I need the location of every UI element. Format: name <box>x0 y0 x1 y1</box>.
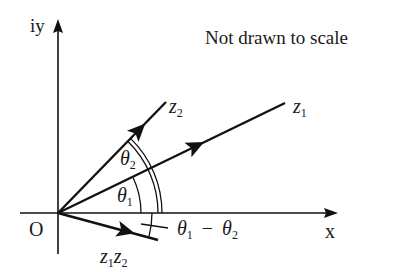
z1z2-sub2: 2 <box>122 256 128 270</box>
theta2-sub: 2 <box>130 158 136 172</box>
difference-symbol1: θ <box>177 217 187 239</box>
y-axis-arrow-icon <box>53 19 63 33</box>
vector-z1 <box>58 103 285 213</box>
z1-label: z1 <box>293 96 307 116</box>
y-axis-label: iy <box>30 16 45 35</box>
y-axis <box>53 19 63 254</box>
difference-operator: − <box>202 217 213 239</box>
vector-z2 <box>58 102 166 213</box>
z1z2-base1: z <box>100 245 108 267</box>
theta1-sub: 1 <box>127 195 133 209</box>
z1z2-arrowhead-icon <box>115 221 137 241</box>
x-axis-label: x <box>325 221 335 241</box>
z1-base: z <box>293 95 301 117</box>
origin-label: O <box>29 219 43 239</box>
z1z2-base2: z <box>114 245 122 267</box>
theta2-symbol: θ <box>120 147 130 169</box>
difference-arc-tick <box>141 224 168 228</box>
theta1-symbol: θ <box>117 184 127 206</box>
difference-sub2: 2 <box>232 228 238 242</box>
theta1-arc <box>133 177 141 213</box>
x-axis-arrow-icon <box>324 208 338 218</box>
z1-sub: 1 <box>301 106 307 120</box>
theta2-label: θ2 <box>120 148 136 168</box>
difference-label: θ1 − θ2 <box>177 218 238 238</box>
z1z2-label: z1z2 <box>100 246 128 266</box>
z2-label: z2 <box>169 96 183 116</box>
difference-symbol2: θ <box>222 217 232 239</box>
z2-base: z <box>169 95 177 117</box>
theta1-label: θ1 <box>117 185 133 205</box>
vector-z1z2 <box>58 213 158 241</box>
difference-sub1: 1 <box>187 228 193 242</box>
z2-sub: 2 <box>177 106 183 120</box>
not-to-scale-note: Not drawn to scale <box>205 28 348 47</box>
z1-arrowhead-icon <box>184 135 207 157</box>
